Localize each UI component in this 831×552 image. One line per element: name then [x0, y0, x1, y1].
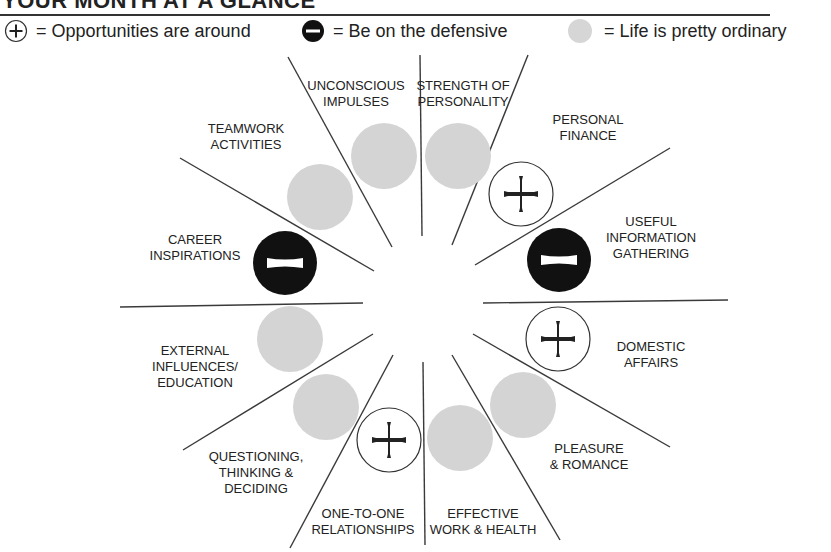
label-line: DECIDING — [209, 481, 304, 497]
grey-dot-icon — [351, 123, 417, 189]
label-line: EFFECTIVE — [430, 506, 537, 522]
label-line: ACTIVITIES — [208, 137, 285, 153]
sector-label-teamwork-activities: TEAMWORK ACTIVITIES — [208, 121, 285, 153]
label-line: CAREER — [150, 232, 241, 248]
sector-label-external-influences-education: EXTERNAL INFLUENCES/ EDUCATION — [152, 343, 238, 391]
sector-label-useful-information-gathering: USEFUL INFORMATION GATHERING — [606, 214, 696, 262]
grey-dot-icon — [293, 374, 359, 440]
label-line: EDUCATION — [152, 375, 238, 391]
sector-label-domestic-affairs: DOMESTIC AFFAIRS — [617, 339, 686, 371]
grey-dot-icon — [257, 306, 323, 372]
label-line: STRENGTH OF — [416, 78, 509, 94]
sector-label-effective-work-health: EFFECTIVE WORK & HEALTH — [430, 506, 537, 538]
label-line: UNCONSCIOUS — [307, 78, 405, 94]
grey-dot-icon — [287, 164, 353, 230]
sector-label-career-inspirations: CAREER INSPIRATIONS — [150, 232, 241, 264]
grey-dot-icon — [427, 405, 493, 471]
label-line: TEAMWORK — [208, 121, 285, 137]
minus-circle-icon — [527, 228, 591, 292]
sector-label-unconscious-impulses: UNCONSCIOUS IMPULSES — [307, 78, 405, 110]
label-line: IMPULSES — [307, 94, 405, 110]
label-line: WORK & HEALTH — [430, 522, 537, 538]
label-line: & ROMANCE — [550, 457, 629, 473]
sector-label-one-to-one-relationships: ONE-TO-ONE RELATIONSHIPS — [311, 506, 414, 538]
plus-circle-icon — [489, 162, 553, 226]
grey-dot-icon — [425, 123, 491, 189]
label-line: INFLUENCES/ — [152, 359, 238, 375]
grey-dot-icon — [490, 372, 556, 438]
label-line: RELATIONSHIPS — [311, 522, 414, 538]
label-line: FINANCE — [553, 128, 624, 144]
label-line: INFORMATION — [606, 230, 696, 246]
label-line: EXTERNAL — [152, 343, 238, 359]
label-line: PLEASURE — [550, 441, 629, 457]
label-line: ONE-TO-ONE — [311, 506, 414, 522]
sector-label-questioning-thinking-deciding: QUESTIONING, THINKING & DECIDING — [209, 449, 304, 497]
sector-label-pleasure-romance: PLEASURE & ROMANCE — [550, 441, 629, 473]
label-line: PERSONALITY — [416, 94, 509, 110]
label-line: USEFUL — [606, 214, 696, 230]
label-line: PERSONAL — [553, 112, 624, 128]
label-line: QUESTIONING, — [209, 449, 304, 465]
sector-label-strength-of-personality: STRENGTH OF PERSONALITY — [416, 78, 509, 110]
plus-circle-icon — [526, 307, 590, 371]
label-line: AFFAIRS — [617, 355, 686, 371]
label-line: GATHERING — [606, 246, 696, 262]
sector-label-personal-finance: PERSONAL FINANCE — [553, 112, 624, 144]
label-line: DOMESTIC — [617, 339, 686, 355]
label-line: THINKING & — [209, 465, 304, 481]
label-line: INSPIRATIONS — [150, 248, 241, 264]
minus-circle-icon — [253, 231, 317, 295]
plus-circle-icon — [357, 408, 421, 472]
